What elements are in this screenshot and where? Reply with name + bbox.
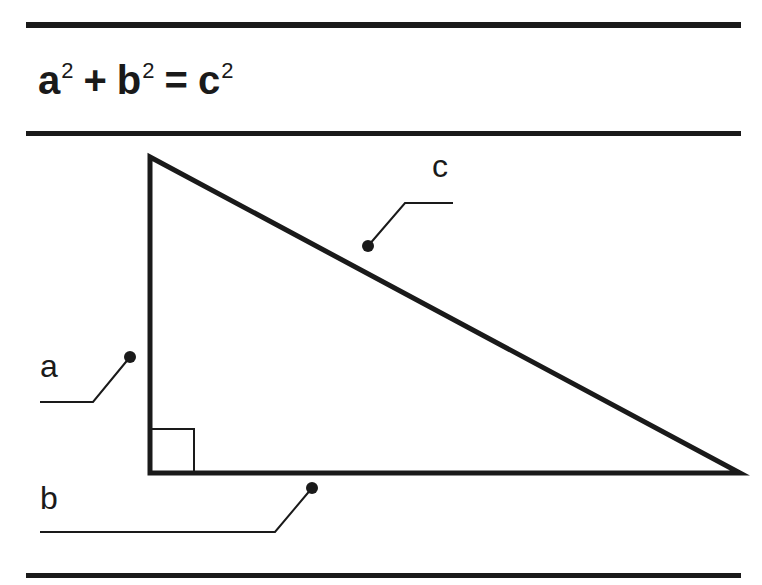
leader-line-c (368, 203, 453, 246)
right-triangle-diagram (0, 0, 762, 585)
leader-dot-a (124, 351, 136, 363)
leader-line-b (40, 488, 312, 532)
label-c: c (432, 150, 448, 182)
leader-dot-b (306, 482, 318, 494)
right-angle-marker (152, 429, 194, 471)
label-b: b (40, 482, 58, 514)
leader-dot-c (362, 240, 374, 252)
triangle-shape (150, 157, 740, 473)
bottom-divider (26, 573, 741, 578)
label-a: a (40, 350, 58, 382)
